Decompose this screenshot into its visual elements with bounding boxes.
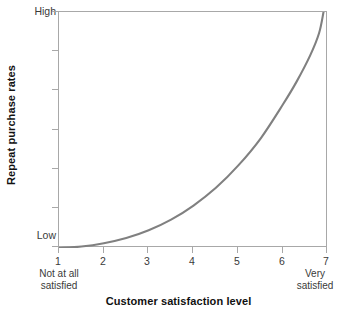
x-tick-mark-4 [192, 247, 193, 253]
x-tick-label-5: 5 [225, 255, 249, 267]
x-anchor-label-low-line1: Not at all [16, 268, 102, 280]
data-curve-svg [59, 12, 328, 248]
x-tick-mark-5 [237, 247, 238, 253]
repeat-purchase-curve [59, 12, 324, 248]
x-tick-mark-7 [326, 247, 327, 253]
x-tick-mark-1 [58, 247, 59, 253]
plot-area [58, 11, 327, 247]
y-tick-label-high: High [20, 5, 56, 17]
x-tick-label-6: 6 [270, 255, 294, 267]
x-tick-mark-2 [103, 247, 104, 253]
x-tick-label-4: 4 [180, 255, 204, 267]
x-anchor-label-high-line1: Very [272, 268, 357, 280]
y-tick-label-group: High Low [18, 0, 56, 250]
x-tick-label-3: 3 [135, 255, 159, 267]
x-anchor-label-low-line2: satisfied [16, 280, 102, 292]
x-tick-mark-3 [147, 247, 148, 253]
chart-figure: Repeat purchase rates High Low 1 2 3 4 5… [0, 0, 357, 317]
y-tick-label-low: Low [20, 229, 56, 241]
x-tick-label-2: 2 [91, 255, 115, 267]
x-tick-mark-6 [282, 247, 283, 253]
x-anchor-label-high-line2: satisfied [272, 280, 357, 292]
x-tick-label-1: 1 [46, 255, 70, 267]
x-axis-title: Customer satisfaction level [0, 295, 357, 307]
y-axis-title-text: Repeat purchase rates [5, 65, 17, 185]
x-anchor-label-low: Not at all satisfied [16, 268, 102, 291]
x-anchor-label-high: Very satisfied [272, 268, 357, 291]
x-tick-label-7: 7 [314, 255, 338, 267]
